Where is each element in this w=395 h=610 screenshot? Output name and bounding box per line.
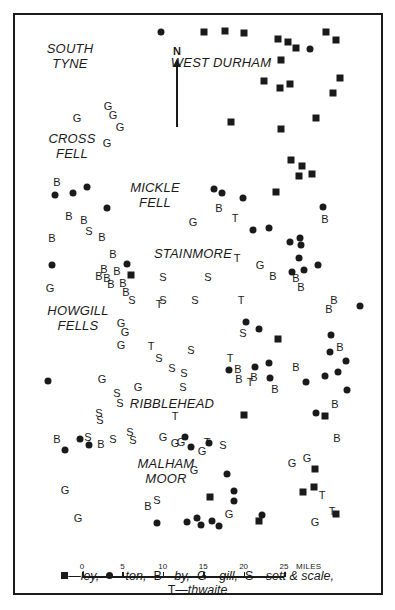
ton-dot-icon	[62, 447, 69, 454]
by-marker: B	[292, 362, 299, 373]
ton-dot-icon	[266, 360, 273, 367]
sett-scale-marker: S	[179, 382, 186, 393]
ton-dot-icon	[211, 186, 218, 193]
ley-square-icon	[275, 36, 282, 43]
thwaite-marker: T	[172, 411, 179, 422]
ton-dot-icon	[256, 326, 263, 333]
ley-square-icon	[299, 163, 306, 170]
ley-square-icon	[296, 173, 303, 180]
by-marker: B	[271, 384, 278, 395]
ton-dot-icon	[250, 227, 257, 234]
ley-square-icon	[285, 39, 292, 46]
ton-dot-icon	[216, 523, 223, 530]
ley-square-icon	[323, 29, 330, 36]
ley-square-icon	[261, 78, 268, 85]
sett-scale-marker: S	[187, 345, 194, 356]
north-label: N	[170, 45, 184, 57]
region-label-stainmore: STAINMORE	[154, 246, 232, 261]
north-arrow: N	[170, 45, 184, 145]
region-label-mickle-fell: MICKLEFELL	[130, 180, 180, 210]
ton-dot-icon	[188, 444, 195, 451]
ley-square-icon	[313, 115, 320, 122]
sett-scale-marker: S	[239, 328, 246, 339]
region-label-cross-fell: CROSSFELL	[48, 131, 95, 161]
sett-scale-marker: S	[191, 295, 198, 306]
by-marker: B	[53, 177, 60, 188]
ley-square-icon	[312, 466, 319, 473]
gill-marker: G	[109, 110, 118, 121]
ton-dot-icon	[296, 255, 303, 262]
ton-dot-icon	[219, 190, 226, 197]
region-label-west-durham: WEST DURHAM	[171, 55, 271, 70]
by-marker: B	[144, 501, 151, 512]
ton-dot-icon	[231, 498, 238, 505]
ley-square-icon	[311, 484, 318, 491]
gill-marker: G	[61, 485, 70, 496]
ton-dot-icon	[344, 387, 351, 394]
ton-dot-icon	[327, 349, 334, 356]
thwaite-marker: T	[156, 299, 163, 310]
by-marker: B	[48, 233, 55, 244]
ton-dot-icon	[267, 375, 274, 382]
ley-square-icon	[337, 75, 344, 82]
ton-dot-icon	[322, 373, 329, 380]
thwaite-marker: T	[319, 490, 326, 501]
ley-square-icon	[278, 126, 285, 133]
by-marker: B	[269, 271, 276, 282]
ton-dot-icon	[303, 379, 310, 386]
gill-marker: G	[177, 437, 186, 448]
ton-dot-icon	[243, 319, 250, 326]
ton-dot-icon	[184, 519, 191, 526]
thwaite-marker: T	[329, 506, 336, 517]
gill-marker: G	[103, 138, 112, 149]
ton-dot-icon	[287, 239, 294, 246]
gill-marker: G	[288, 458, 297, 469]
ton-dot-icon	[104, 205, 111, 212]
legend-thwaite: thwaite	[188, 583, 228, 597]
ley-square-icon	[300, 489, 307, 496]
thwaite-marker: T	[247, 377, 254, 388]
gill-marker: G	[117, 340, 126, 351]
gill-marker: G	[134, 382, 143, 393]
ley-square-icon	[241, 30, 248, 37]
ley-square-icon	[222, 28, 229, 35]
gill-marker: G	[189, 217, 198, 228]
ton-dot-icon	[194, 515, 201, 522]
gill-marker: G	[74, 513, 83, 524]
by-marker: B	[53, 434, 60, 445]
region-label-malham-moor: MALHAMMOOR	[138, 456, 195, 486]
map-layer: SOUTHTYNEWEST DURHAMCROSSFELLMICKLEFELLS…	[0, 0, 395, 610]
sett-scale-marker: S	[128, 295, 135, 306]
thwaite-marker: T	[148, 341, 155, 352]
ton-dot-icon	[307, 46, 314, 53]
by-marker: B	[292, 273, 299, 284]
ton-dot-icon	[158, 29, 165, 36]
ley-square-icon	[293, 45, 300, 52]
ley-square-icon	[330, 90, 337, 97]
ton-dot-icon	[266, 225, 273, 232]
sett-scale-marker: S	[116, 398, 123, 409]
ton-dot-icon	[154, 520, 161, 527]
gill-marker: G	[225, 509, 234, 520]
gill-marker: G	[73, 113, 82, 124]
sett-scale-marker: S	[129, 435, 136, 446]
sett-scale-marker: S	[84, 432, 91, 443]
ton-dot-icon	[335, 369, 342, 376]
ton-dot-icon	[297, 235, 304, 242]
thwaite-marker: T	[238, 295, 245, 306]
by-marker: B	[109, 249, 116, 260]
legend-gill-symbol: G	[197, 569, 207, 583]
ton-dot-icon	[77, 436, 84, 443]
thwaite-marker: T	[227, 353, 234, 364]
ton-dot-icon	[343, 358, 350, 365]
ton-dot-icon	[313, 410, 320, 417]
by-marker: B	[107, 279, 114, 290]
legend-gill: gill,	[219, 569, 238, 583]
gill-marker: G	[46, 283, 55, 294]
region-label-south-tyne: SOUTHTYNE	[47, 41, 94, 71]
ton-dot-icon	[86, 442, 93, 449]
by-marker: B	[97, 439, 104, 450]
gill-marker: G	[98, 374, 107, 385]
ley-square-icon	[256, 518, 263, 525]
by-marker: B	[336, 342, 343, 353]
